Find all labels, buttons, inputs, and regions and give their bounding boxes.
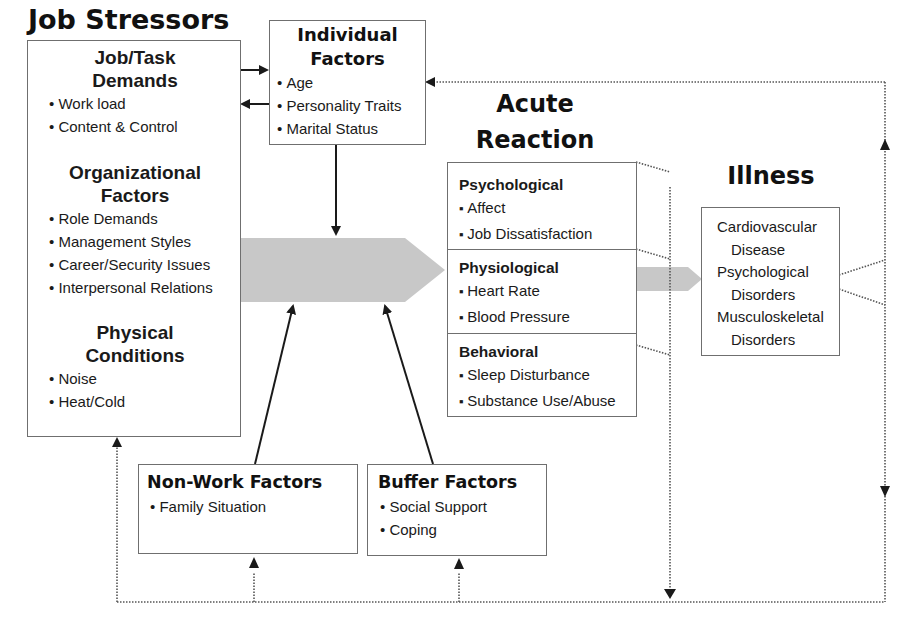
arrowhead-right-down <box>880 486 890 497</box>
illness-line: Disease <box>717 239 839 262</box>
list-item: Coping <box>380 518 546 541</box>
list-item: Heat/Cold <box>49 390 242 413</box>
illness-line: Disorders <box>717 329 839 352</box>
organizational-factors-list: Role Demands Management Styles Career/Se… <box>28 207 242 299</box>
physical-conditions-section: Physical Conditions Noise Heat/Cold <box>28 321 242 413</box>
buffer-factors-title: Buffer Factors <box>378 471 546 493</box>
list-item: Substance Use/Abuse <box>459 389 636 415</box>
organizational-factors-section: Organizational Factors Role Demands Mana… <box>28 161 242 299</box>
section-heading: Job/Task <box>28 46 242 69</box>
list-item: Content & Control <box>49 115 242 138</box>
buffer-up-arrow <box>385 306 433 464</box>
list-item: Blood Pressure <box>459 305 636 331</box>
list-item: Personality Traits <box>277 94 425 117</box>
list-item: Sleep Disturbance <box>459 363 636 389</box>
illness-box: Cardiovascular Disease Psychological Dis… <box>701 207 840 356</box>
job-task-demands-section: Job/Task Demands Work load Content & Con… <box>28 46 242 138</box>
list-item: Affect <box>459 196 636 222</box>
section-heading: Conditions <box>28 344 242 367</box>
non-work-factors-box: Non-Work Factors Family Situation <box>138 464 358 554</box>
list-item: Social Support <box>380 495 546 518</box>
behavioral-list: Sleep Disturbance Substance Use/Abuse <box>459 363 636 414</box>
behavioral-section: Behavioral Sleep Disturbance Substance U… <box>448 334 636 416</box>
section-heading: Physiological <box>459 257 636 279</box>
nonwork-up-arrow <box>255 306 293 464</box>
acute-reaction-box: Psychological Affect Job Dissatisfaction… <box>447 162 637 417</box>
physiological-section: Physiological Heart Rate Blood Pressure <box>448 250 636 334</box>
list-item: Job Dissatisfaction <box>459 222 636 248</box>
list-item: Management Styles <box>49 230 242 253</box>
arrowhead-acute-down <box>664 589 676 599</box>
illness-line: Disorders <box>717 284 839 307</box>
list-item: Age <box>277 71 425 94</box>
individual-factors-title-line2: Factors <box>270 47 425 71</box>
arrowhead-buffer-up <box>454 558 464 569</box>
psychological-list: Affect Job Dissatisfaction <box>459 196 636 247</box>
list-item: Interpersonal Relations <box>49 276 242 299</box>
individual-factors-title: Individual <box>270 23 425 47</box>
buffer-factors-box: Buffer Factors Social Support Coping <box>367 464 547 556</box>
section-heading: Psychological <box>459 174 636 196</box>
job-task-demands-list: Work load Content & Control <box>28 92 242 138</box>
section-heading: Organizational <box>28 161 242 184</box>
non-work-factors-list: Family Situation <box>147 495 357 518</box>
arrowhead-stressors-up <box>112 437 122 447</box>
acute-to-illness-arrow <box>636 267 702 291</box>
section-heading: Factors <box>28 184 242 207</box>
job-stressors-box: Job/Task Demands Work load Content & Con… <box>27 40 241 437</box>
list-item: Marital Status <box>277 117 425 140</box>
arrowhead-right-up <box>880 139 890 150</box>
illness-line: Cardiovascular <box>717 216 839 239</box>
arrowhead-nonwork-up <box>249 557 259 568</box>
list-item: Family Situation <box>150 495 357 518</box>
illness-title: Illness <box>712 160 830 192</box>
individual-factors-list: Age Personality Traits Marital Status <box>270 71 425 140</box>
list-item: Heart Rate <box>459 279 636 305</box>
non-work-factors-title: Non-Work Factors <box>147 471 357 493</box>
list-item: Career/Security Issues <box>49 253 242 276</box>
illness-line: Psychological <box>717 261 839 284</box>
list-item: Noise <box>49 367 242 390</box>
arrowhead-to-individual <box>425 77 435 87</box>
acute-reaction-title-line2: Reaction <box>450 122 620 158</box>
list-item: Role Demands <box>49 207 242 230</box>
illness-line: Musculoskeletal <box>717 306 839 329</box>
physiological-list: Heart Rate Blood Pressure <box>459 279 636 330</box>
main-stress-arrow <box>240 238 445 302</box>
list-item: Work load <box>49 92 242 115</box>
buffer-factors-list: Social Support Coping <box>378 495 546 541</box>
individual-factors-box: Individual Factors Age Personality Trait… <box>269 20 426 145</box>
job-stressors-title: Job Stressors <box>28 4 229 36</box>
acute-reaction-title-line1: Acute <box>450 86 620 122</box>
physical-conditions-list: Noise Heat/Cold <box>28 367 242 413</box>
section-heading: Demands <box>28 69 242 92</box>
psychological-section: Psychological Affect Job Dissatisfaction <box>448 163 636 250</box>
section-heading: Behavioral <box>459 341 636 363</box>
section-heading: Physical <box>28 321 242 344</box>
acute-reaction-title: Acute Reaction <box>450 86 620 158</box>
